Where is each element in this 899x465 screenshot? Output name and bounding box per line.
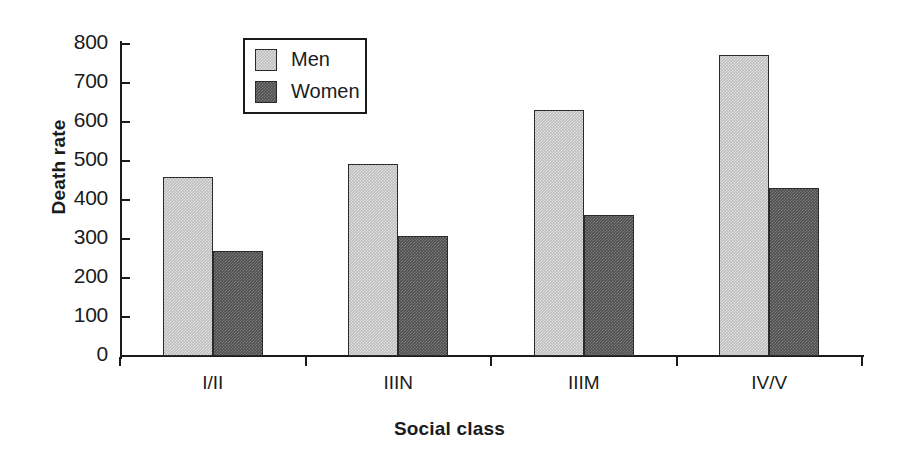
- value-axis-label: 300: [46, 225, 108, 249]
- category-axis-tick: [490, 357, 492, 366]
- legend-swatch-men-icon: [255, 49, 277, 71]
- bar-women-I-II: [213, 251, 263, 356]
- category-axis-label: IIIN: [383, 372, 413, 394]
- x-axis-title: Social class: [0, 418, 899, 440]
- value-axis-label: 0: [46, 342, 108, 366]
- legend-swatch-women-icon: [255, 81, 277, 103]
- category-axis-label: IV/V: [751, 372, 787, 394]
- value-axis-label: 500: [46, 147, 108, 171]
- bar-women-IV-V: [769, 188, 819, 356]
- category-axis-tick: [861, 357, 863, 366]
- legend-label-men: Men: [291, 48, 330, 71]
- value-axis-label: 400: [46, 186, 108, 210]
- bar-men-IIIM: [534, 110, 584, 356]
- bar-men-IV-V: [719, 55, 769, 356]
- value-axis-label: 600: [46, 108, 108, 132]
- legend-label-women: Women: [291, 80, 360, 103]
- value-axis-label: 200: [46, 264, 108, 288]
- legend-item-men: Men: [255, 48, 330, 71]
- bar-women-IIIM: [584, 215, 634, 356]
- plot-area: [120, 44, 862, 356]
- category-axis-tick: [305, 357, 307, 366]
- category-axis-label: IIIM: [568, 372, 600, 394]
- category-axis-tick: [119, 357, 121, 366]
- chart-figure: Death rate 0100200300400500600700800 I/I…: [0, 0, 899, 465]
- value-axis-label: 100: [46, 303, 108, 327]
- legend: Men Women: [243, 38, 367, 114]
- bar-men-IIIN: [348, 164, 398, 356]
- value-axis-label: 800: [46, 30, 108, 54]
- category-axis-label: I/II: [202, 372, 223, 394]
- category-axis-tick: [676, 357, 678, 366]
- legend-item-women: Women: [255, 80, 360, 103]
- value-axis-label: 700: [46, 69, 108, 93]
- bar-women-IIIN: [398, 236, 448, 356]
- bar-men-I-II: [163, 177, 213, 356]
